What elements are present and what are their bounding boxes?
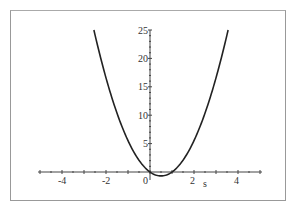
y-tick-label: 5	[143, 138, 148, 149]
y-tick-label: 10	[138, 110, 148, 121]
curve-line	[94, 30, 228, 176]
x-axis-label: s	[203, 178, 207, 189]
x-tick-label: 4	[234, 175, 239, 186]
plot-area: -4-2024 510152025 s	[0, 0, 291, 209]
y-tick-label: 15	[138, 81, 148, 92]
y-tick-label: 20	[138, 53, 148, 64]
x-tick-label: -4	[58, 175, 66, 186]
x-tick-label: 2	[190, 175, 195, 186]
x-tick-label: 0	[143, 175, 148, 186]
x-tick-label: -2	[102, 175, 110, 186]
y-tick-label: 25	[138, 25, 148, 36]
